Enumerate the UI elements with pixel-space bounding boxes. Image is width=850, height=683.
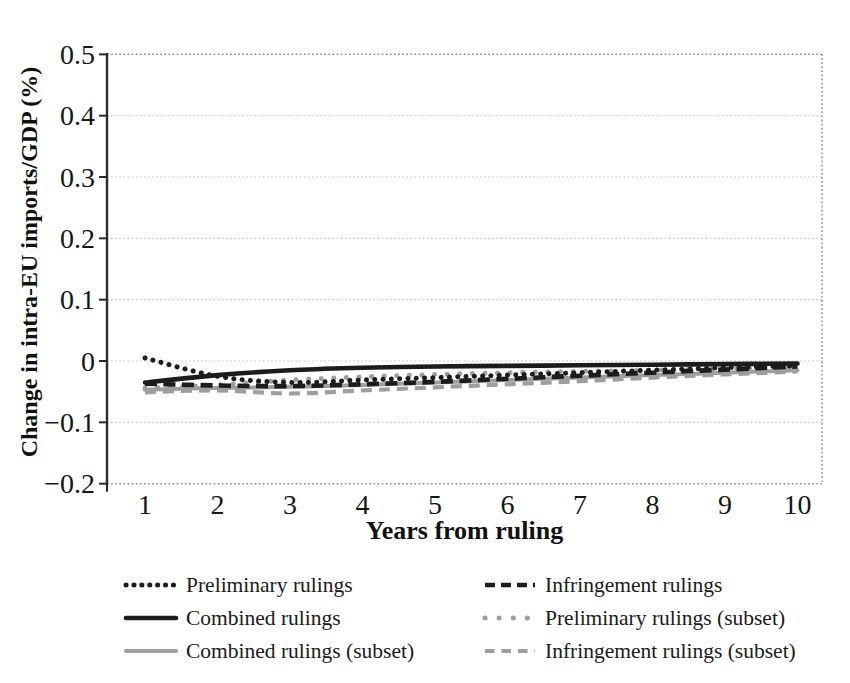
legend-marker-dotted-sparse-icon <box>482 612 538 624</box>
y-tick-label: 0.5 <box>60 39 95 70</box>
figure-page: 0.50.40.30.20.10−0.1−0.212345678910 Chan… <box>0 0 850 683</box>
legend-label: Preliminary rulings (subset) <box>545 606 785 631</box>
legend-label: Infringement rulings (subset) <box>545 639 796 664</box>
y-tick-label: 0.3 <box>60 162 95 193</box>
legend-item-preliminary: Preliminary rulings <box>123 574 414 596</box>
y-tick-label: 0 <box>81 346 95 377</box>
y-tick-label: −0.1 <box>44 407 95 438</box>
legend-item-combined-subset: Combined rulings (subset) <box>123 640 414 662</box>
legend-column-1: Preliminary rulingsCombined rulingsCombi… <box>123 574 414 673</box>
legend-column-2: Infringement rulingsPreliminary rulings … <box>482 574 796 673</box>
legend-marker-dashed-icon <box>482 579 538 591</box>
y-tick-label: 0.1 <box>60 284 95 315</box>
chart-legend: Preliminary rulingsCombined rulingsCombi… <box>0 574 850 679</box>
legend-item-preliminary-subset: Preliminary rulings (subset) <box>482 607 796 629</box>
y-tick-label: −0.2 <box>44 468 95 499</box>
legend-item-combined: Combined rulings <box>123 607 414 629</box>
line-chart-canvas: 0.50.40.30.20.10−0.1−0.212345678910 <box>0 0 850 565</box>
legend-marker-dashed-thin-icon <box>482 645 538 657</box>
legend-label: Infringement rulings <box>545 573 722 598</box>
legend-marker-solid-icon <box>123 612 179 624</box>
legend-label: Combined rulings (subset) <box>186 639 414 664</box>
y-axis-title: Change in intra-EU imports/GDP (%) <box>16 51 46 473</box>
legend-item-infringement-subset: Infringement rulings (subset) <box>482 640 796 662</box>
x-axis-title: Years from ruling <box>107 516 822 546</box>
y-tick-label: 0.4 <box>60 100 95 131</box>
legend-item-infringement: Infringement rulings <box>482 574 796 596</box>
legend-label: Combined rulings <box>186 606 341 631</box>
legend-marker-dotted-dense-icon <box>123 579 179 591</box>
legend-marker-solid-thin-icon <box>123 645 179 657</box>
y-tick-label: 0.2 <box>60 223 95 254</box>
legend-label: Preliminary rulings <box>186 573 353 598</box>
